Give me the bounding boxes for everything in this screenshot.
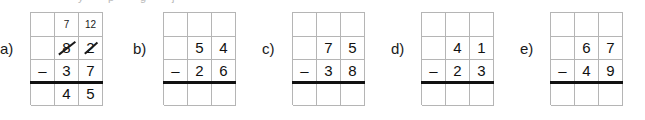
grid-row-difference bbox=[293, 82, 365, 105]
digit-cell: 7 bbox=[317, 36, 341, 60]
regroup-cell[interactable] bbox=[212, 13, 236, 37]
regroup-cell[interactable] bbox=[470, 13, 494, 37]
digit-cell: 5 bbox=[188, 36, 212, 60]
answer-cell[interactable] bbox=[317, 82, 341, 106]
regroup-cell[interactable] bbox=[575, 13, 599, 37]
answer-cell[interactable] bbox=[446, 82, 470, 106]
answer-cell[interactable] bbox=[188, 82, 212, 106]
answer-rule bbox=[292, 81, 365, 84]
digit-text: 7 bbox=[606, 39, 614, 56]
digit-text: 7 bbox=[324, 39, 332, 56]
digit-text: 5 bbox=[86, 85, 94, 102]
answer-cell[interactable] bbox=[164, 82, 188, 106]
regroup-cell[interactable] bbox=[317, 13, 341, 37]
grid-row-minuend: 67 bbox=[551, 36, 623, 59]
minus-sign-cell: – bbox=[164, 59, 188, 83]
answer-cell[interactable] bbox=[599, 82, 623, 106]
minus-sign-cell: – bbox=[422, 59, 446, 83]
grid-row-subtrahend: –37 bbox=[31, 59, 103, 82]
top-artifact-mark: j bbox=[172, 0, 174, 3]
problem-label: a) bbox=[0, 40, 26, 57]
digit-text: 8 bbox=[348, 62, 356, 79]
grid-row-minuend: 82 bbox=[31, 36, 103, 59]
grid-row-difference bbox=[422, 82, 494, 105]
grid-row-regroup bbox=[551, 13, 623, 36]
digit-text: – bbox=[429, 62, 437, 79]
answer-cell[interactable] bbox=[31, 82, 55, 106]
digit-text: 6 bbox=[582, 39, 590, 56]
answer-cell[interactable] bbox=[341, 82, 365, 106]
calculation-grid: 54–26 bbox=[163, 12, 236, 105]
regroup-cell[interactable] bbox=[422, 13, 446, 37]
regroup-cell[interactable] bbox=[551, 13, 575, 37]
digit-cell: 3 bbox=[470, 59, 494, 83]
answer-cell[interactable] bbox=[422, 82, 446, 106]
digit-text: 2 bbox=[86, 39, 94, 56]
problem-label: d) bbox=[391, 40, 417, 57]
calculation-grid: 41–23 bbox=[421, 12, 494, 105]
regroup-cell[interactable] bbox=[31, 13, 55, 37]
digit-cell: 6 bbox=[212, 59, 236, 83]
digit-cell: 8 bbox=[55, 36, 79, 60]
digit-text: 5 bbox=[348, 39, 356, 56]
digit-cell: 4 bbox=[212, 36, 236, 60]
top-artifact-mark: g bbox=[140, 0, 146, 3]
regroup-cell[interactable] bbox=[164, 13, 188, 37]
digit-cell: 2 bbox=[188, 59, 212, 83]
calculation-grid: 75–38 bbox=[292, 12, 365, 105]
digit-text: 8 bbox=[62, 39, 70, 56]
regroup-cell[interactable] bbox=[446, 13, 470, 37]
problem-label: b) bbox=[133, 40, 159, 57]
digit-text: – bbox=[300, 62, 308, 79]
digit-cell: 1 bbox=[470, 36, 494, 60]
digit-cell: 3 bbox=[317, 59, 341, 83]
digit-text: – bbox=[171, 62, 179, 79]
minus-sign-cell: – bbox=[551, 59, 575, 83]
answer-rule bbox=[163, 81, 236, 84]
answer-cell[interactable]: 4 bbox=[55, 82, 79, 106]
digit-text: 3 bbox=[324, 62, 332, 79]
digit-text: 6 bbox=[219, 62, 227, 79]
grid-row-minuend: 41 bbox=[422, 36, 494, 59]
digit-cell: 4 bbox=[446, 36, 470, 60]
minus-sign-cell: – bbox=[293, 59, 317, 83]
digit-text: 7 bbox=[86, 62, 94, 79]
regroup-cell[interactable]: 7 bbox=[55, 13, 79, 37]
digit-cell bbox=[293, 36, 317, 60]
regroup-cell[interactable] bbox=[293, 13, 317, 37]
grid-row-subtrahend: –38 bbox=[293, 59, 365, 82]
digit-cell: 2 bbox=[79, 36, 103, 60]
answer-rule bbox=[550, 81, 623, 84]
grid-row-minuend: 75 bbox=[293, 36, 365, 59]
answer-rule bbox=[421, 81, 494, 84]
digit-text: 2 bbox=[195, 62, 203, 79]
regroup-cell[interactable] bbox=[599, 13, 623, 37]
regroup-cell[interactable] bbox=[341, 13, 365, 37]
answer-cell[interactable] bbox=[293, 82, 317, 106]
grid-row-regroup: 712 bbox=[31, 13, 103, 36]
digit-cell: 6 bbox=[575, 36, 599, 60]
digit-text: 3 bbox=[477, 62, 485, 79]
grid-row-subtrahend: –26 bbox=[164, 59, 236, 82]
digit-cell: 2 bbox=[446, 59, 470, 83]
grid-row-minuend: 54 bbox=[164, 36, 236, 59]
digit-cell bbox=[31, 36, 55, 60]
digit-cell: 3 bbox=[55, 59, 79, 83]
grid-row-difference: 45 bbox=[31, 82, 103, 105]
answer-cell[interactable] bbox=[575, 82, 599, 106]
digit-text: 9 bbox=[606, 62, 614, 79]
top-artifact-mark: y bbox=[78, 0, 84, 3]
regroup-cell[interactable]: 12 bbox=[79, 13, 103, 37]
answer-cell[interactable]: 5 bbox=[79, 82, 103, 106]
regroup-cell[interactable] bbox=[188, 13, 212, 37]
answer-cell[interactable] bbox=[212, 82, 236, 106]
answer-cell[interactable] bbox=[551, 82, 575, 106]
digit-text: 3 bbox=[62, 62, 70, 79]
problem-label: c) bbox=[262, 40, 288, 57]
problem-label: e) bbox=[520, 40, 546, 57]
answer-cell[interactable] bbox=[470, 82, 494, 106]
grid-row-difference bbox=[551, 82, 623, 105]
digit-cell: 4 bbox=[575, 59, 599, 83]
digit-text: 4 bbox=[219, 39, 227, 56]
calculation-grid: 71282–3745 bbox=[30, 12, 103, 105]
